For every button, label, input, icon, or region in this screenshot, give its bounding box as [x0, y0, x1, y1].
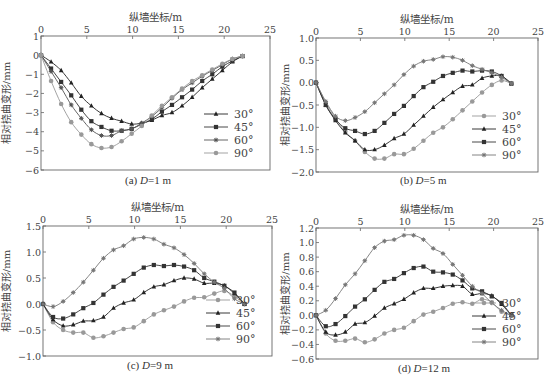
data-point: [382, 156, 387, 161]
data-point: [373, 288, 377, 292]
data-point: [402, 152, 407, 157]
data-point: [180, 103, 185, 107]
data-point: [89, 142, 94, 147]
data-point: [353, 129, 357, 133]
x-tick-label: 5: [86, 214, 92, 225]
y-axis-label: 相对挠曲变形/mm: [0, 61, 12, 144]
caption-d: (d) D=12 m: [398, 362, 450, 374]
legend-label: 60°: [502, 136, 522, 149]
chart-panel-a: 051015202510−1−2−3−4−5−6纵墙坐标/m相对挠曲变形/mm3…: [0, 11, 276, 176]
data-point: [39, 53, 44, 58]
legend-label: 60°: [236, 320, 256, 333]
y-tick-label: 1.0: [26, 247, 41, 258]
y-axis-label: 相对挠曲变形/mm: [0, 249, 12, 332]
data-point: [202, 276, 206, 280]
x-axis-label: 纵墙坐标/m: [400, 13, 454, 25]
y-tick-label: −6: [25, 165, 39, 176]
data-point: [99, 111, 104, 115]
legend-label: 45°: [502, 310, 522, 323]
data-point: [392, 277, 396, 281]
data-point: [421, 312, 426, 317]
data-point: [51, 315, 55, 319]
y-tick-label: −1.0: [291, 122, 314, 133]
data-point: [212, 291, 217, 296]
data-point: [109, 129, 113, 133]
data-point: [170, 103, 174, 107]
y-tick-label: 1.5: [26, 221, 41, 232]
y-tick-label: 0.5: [26, 273, 41, 284]
y-tick-label: 0: [33, 50, 39, 61]
data-point: [480, 90, 485, 95]
data-point: [152, 263, 156, 267]
data-point: [210, 76, 215, 80]
legend-marker-circle-icon: [214, 151, 219, 156]
data-point: [333, 322, 337, 326]
x-tick-label: 10: [399, 26, 411, 37]
series-90deg: [314, 54, 514, 122]
data-point: [441, 125, 446, 130]
x-tick-label: 5: [84, 24, 90, 35]
data-point: [91, 336, 96, 341]
data-point: [49, 79, 54, 84]
data-point: [411, 146, 416, 151]
data-point: [122, 279, 126, 283]
y-tick-label: −3: [25, 107, 39, 118]
x-tick-label: 10: [127, 24, 139, 35]
data-point: [451, 272, 455, 276]
data-point: [190, 79, 195, 84]
y-tick-label: −5: [25, 145, 39, 156]
data-point: [79, 132, 84, 137]
data-point: [382, 280, 386, 284]
data-point: [460, 69, 464, 73]
x-tick-label: 15: [174, 214, 186, 225]
data-point: [91, 301, 95, 305]
data-point: [343, 314, 347, 318]
y-tick-label: −4: [25, 126, 39, 137]
y-tick-label: −0.5: [18, 325, 41, 336]
data-point: [182, 299, 187, 304]
data-point: [89, 119, 93, 123]
data-point: [162, 264, 166, 268]
data-point: [71, 330, 76, 335]
data-point: [460, 278, 464, 282]
x-tick-label: 25: [532, 26, 544, 37]
legend-label: 45°: [502, 123, 522, 136]
series-45deg: [314, 73, 514, 151]
legend-label: 45°: [236, 307, 256, 320]
data-point: [142, 266, 146, 270]
data-point: [411, 319, 416, 324]
legend-label: 90°: [234, 147, 254, 160]
data-point: [129, 131, 134, 136]
data-point: [450, 301, 455, 306]
chart-panel-b: 05101520251.00.50.0−0.5−1.0−1.5−2.0纵墙坐标/…: [279, 13, 544, 178]
data-point: [460, 300, 465, 305]
y-tick-label: −0.5: [291, 100, 314, 111]
data-point: [162, 308, 167, 313]
y-tick-label: 0.8: [299, 252, 314, 263]
data-point: [441, 270, 445, 274]
legend-marker-square-icon: [482, 140, 486, 144]
data-point: [49, 59, 54, 63]
data-point: [132, 272, 136, 276]
data-point: [431, 270, 435, 274]
legend-label: 30°: [234, 108, 254, 121]
data-point: [200, 79, 204, 83]
caption-b-var: D: [416, 174, 424, 186]
legend-marker-circle-icon: [216, 298, 221, 303]
data-point: [450, 90, 455, 94]
data-point: [470, 99, 475, 104]
data-point: [421, 85, 425, 89]
data-point: [421, 138, 426, 143]
caption-a-suffix: =1 m: [148, 174, 171, 186]
x-tick-label: 10: [399, 216, 411, 227]
caption-a-var: D: [140, 174, 148, 186]
data-point: [382, 121, 386, 125]
data-point: [431, 80, 435, 84]
data-point: [71, 312, 75, 316]
legend: 30°45°60°90°: [206, 294, 256, 346]
data-point: [101, 293, 105, 297]
y-tick-label: 1.0: [299, 237, 314, 248]
data-point: [382, 331, 387, 336]
data-point: [69, 120, 74, 125]
caption-d-var: D: [414, 362, 422, 374]
